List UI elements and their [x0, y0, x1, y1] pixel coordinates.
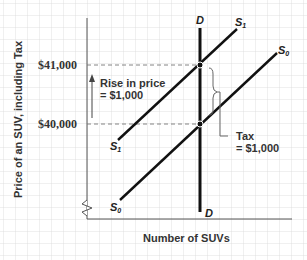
- demand-label-bottom: D: [205, 207, 213, 219]
- rise-label-line2: = $1,000: [100, 89, 143, 101]
- rise-label-line1: Rise in price: [100, 77, 165, 89]
- equilibrium-point-s0: [197, 121, 203, 127]
- equilibrium-point-s1: [197, 62, 203, 68]
- chart-canvas: $41,000 $40,000 Rise in price = $1,000 T…: [0, 0, 307, 260]
- ytick-40000: $40,000: [38, 117, 77, 131]
- tax-label-line2: = $1,000: [236, 142, 279, 154]
- ytick-41000: $41,000: [38, 58, 77, 72]
- x-axis-title: Number of SUVs: [143, 232, 230, 244]
- tax-label-line1: Tax: [236, 130, 255, 142]
- demand-label-top: D: [196, 14, 204, 26]
- y-axis-title: Price of an SUV, including Tax: [12, 40, 24, 198]
